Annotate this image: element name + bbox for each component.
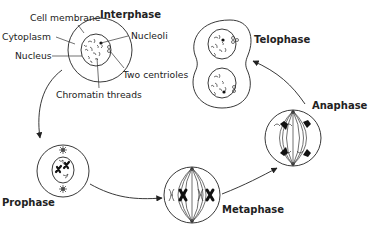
arrow-metaphase-to-anaphase <box>222 168 277 194</box>
chromosome-icon <box>56 162 69 172</box>
label-nucleoli: Nucleoli <box>131 30 168 41</box>
aster-icon <box>59 146 67 193</box>
phase-label-metaphase: Metaphase <box>222 204 284 215</box>
mitosis-diagram: Cell membrane Cytoplasm Nucleus Nucleoli… <box>0 0 369 229</box>
phase-label-telophase: Telophase <box>254 34 311 45</box>
anaphase-cell <box>265 110 321 166</box>
arrow-anaphase-to-telophase <box>253 61 305 104</box>
phase-label-interphase: Interphase <box>100 9 161 20</box>
telophase-cell <box>193 20 251 108</box>
label-cell-membrane: Cell membrane <box>30 12 101 23</box>
prophase-cell <box>37 145 89 197</box>
arrow-prophase-to-metaphase <box>90 184 162 199</box>
label-cytoplasm: Cytoplasm <box>2 31 51 42</box>
label-two-centrioles: Two centrioles <box>122 69 188 80</box>
metaphase-cell <box>164 167 220 223</box>
phase-label-prophase: Prophase <box>2 197 55 208</box>
label-nucleus: Nucleus <box>15 50 52 61</box>
interphase-cell <box>52 18 132 88</box>
arrow-interphase-to-prophase <box>39 70 62 138</box>
phase-label-anaphase: Anaphase <box>312 100 368 111</box>
label-chromatin-threads: Chromatin threads <box>56 89 142 100</box>
